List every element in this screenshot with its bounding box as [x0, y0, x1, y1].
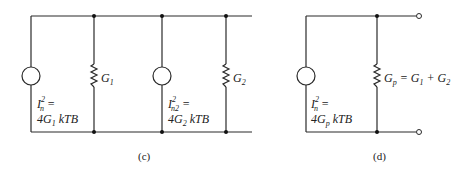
noise-current-source-p [297, 67, 315, 85]
source2-label-line2: 4G2 kTB [168, 112, 210, 128]
resistor-g2 [223, 64, 229, 87]
output-terminal-bottom [417, 130, 422, 135]
noise-current-source-1 [22, 67, 40, 85]
junction-dot [160, 130, 164, 134]
resistor-g2-label: G2 [233, 71, 246, 87]
circuit-diagram: G1 G2 I2n = 4G1 kTB I2n2 = 4G2 kTB (c) G… [0, 0, 467, 173]
junction-dot [92, 130, 96, 134]
junction-dot [224, 130, 228, 134]
caption-d: (d) [373, 150, 386, 163]
panel-c: G1 G2 I2n = 4G1 kTB I2n2 = 4G2 kTB (c) [22, 14, 252, 163]
resistor-gp-label: Gp = G1 + G2 [384, 71, 450, 87]
source1-label-line2: 4G1 kTB [37, 112, 79, 128]
source-p-label-line2: 4Gp kTB [311, 112, 353, 128]
junction-dot [375, 14, 379, 18]
noise-current-source-2 [153, 67, 171, 85]
source-p-label-line1: I2n = [310, 95, 329, 113]
resistor-gp [374, 64, 380, 87]
resistor-g1 [91, 64, 97, 87]
panel-d: Gp = G1 + G2 I2n = 4Gp kTB (d) [297, 14, 450, 164]
output-terminal-top [417, 14, 422, 19]
junction-dot [160, 14, 164, 18]
source1-label-line1: I2n = [36, 95, 55, 113]
caption-c: (c) [138, 150, 151, 163]
source2-label-line1: I2n2 = [167, 95, 190, 113]
junction-dot [92, 14, 96, 18]
junction-dot [224, 14, 228, 18]
junction-dot [375, 130, 379, 134]
resistor-g1-label: G1 [101, 71, 114, 87]
